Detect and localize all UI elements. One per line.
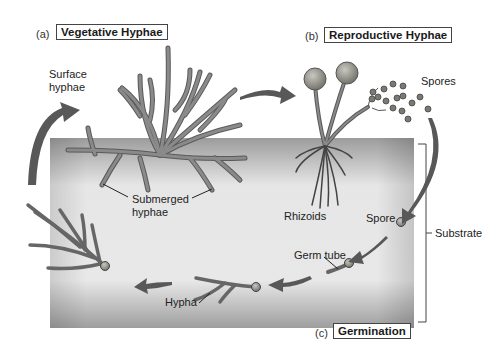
label-germ-tube: Germ tube — [294, 249, 346, 261]
panel-b-title: Reproductive Hyphae — [324, 27, 452, 43]
panel-b-letter: (b) — [305, 30, 318, 42]
panel-c-letter: (c) — [315, 327, 328, 339]
panel-a-title: Vegetative Hyphae — [56, 24, 168, 40]
label-substrate: Substrate — [435, 227, 482, 239]
sporangium-left — [304, 68, 326, 90]
label-submerged-hyphae-line2: hyphae — [132, 206, 168, 218]
label-hypha: Hypha — [165, 296, 197, 308]
panel-c-title: Germination — [333, 323, 411, 339]
sporangium-right — [336, 62, 358, 84]
label-spores: Spores — [421, 75, 456, 87]
spores-cloud — [369, 81, 431, 122]
label-spore: Spore — [366, 212, 395, 224]
arrow-to-reproductive — [240, 86, 296, 104]
substrate-block — [50, 138, 414, 328]
label-surface-hyphae-line2: hyphae — [49, 81, 85, 93]
label-rhizoids: Rhizoids — [284, 210, 326, 222]
panel-a-letter: (a) — [36, 28, 49, 40]
fungal-life-cycle-diagram — [0, 0, 493, 359]
hypha-spore — [252, 283, 261, 292]
label-submerged-hyphae-line1: Submerged — [132, 193, 189, 205]
label-surface-hyphae-line1: Surface — [49, 68, 87, 80]
